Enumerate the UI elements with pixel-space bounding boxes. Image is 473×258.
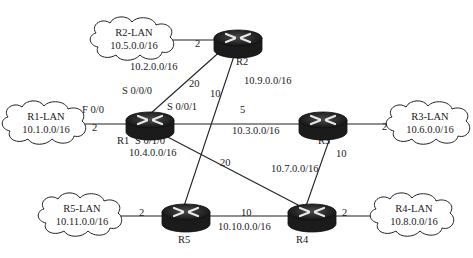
router-r5[interactable] [162, 204, 210, 232]
cost-r2lan: 2 [195, 38, 200, 49]
router-label-r3: R3 [318, 135, 330, 146]
router-label-r1: R1 [117, 135, 129, 146]
lan-name: R4-LAN [395, 203, 433, 214]
lan-r2[interactable]: R2-LAN 10.5.0.0/16 [90, 17, 173, 60]
interface-s010: S 0/1/0 [135, 135, 165, 146]
router-icon [288, 204, 336, 232]
lan-network: 10.8.0.0/16 [390, 216, 438, 227]
network-r2-r5: 10.9.0.0/16 [244, 75, 292, 86]
cost-r3-r4: 10 [336, 148, 347, 159]
lan-name: R2-LAN [115, 27, 153, 38]
cloud-icon [90, 17, 173, 60]
router-label-r4: R4 [296, 234, 309, 245]
router-r4[interactable] [288, 204, 336, 232]
lan-network: 10.6.0.0/16 [406, 124, 454, 135]
cost-r1-r4: 20 [220, 157, 231, 168]
cloud-icon [386, 101, 469, 144]
cost-r4lan: 2 [342, 207, 347, 218]
router-label-r5: R5 [178, 234, 190, 245]
network-r1-r3: 10.3.0.0/16 [232, 125, 280, 136]
lan-network: 10.5.0.0/16 [110, 40, 158, 51]
interface-s001: S 0/0/1 [167, 101, 197, 112]
cost-r1-r2: 20 [189, 78, 200, 89]
network-topology-diagram: R2-LAN 10.5.0.0/16 R1-LAN 10.1.0.0/16 R3… [0, 0, 473, 258]
lan-name: R5-LAN [63, 203, 101, 214]
cost-r5-r4: 10 [241, 207, 252, 218]
router-icon [214, 30, 262, 58]
cost-r3lan: 2 [382, 121, 387, 132]
cost-r5lan: 2 [139, 207, 144, 218]
cloud-icon [2, 101, 85, 144]
network-r3-r4: 10.7.0.0/16 [271, 163, 319, 174]
network-r5-r4: 10.10.0.0/16 [218, 221, 271, 232]
interface-s000: S 0/0/0 [122, 85, 152, 96]
cloud-icon [38, 193, 121, 236]
lan-name: R1-LAN [27, 111, 65, 122]
interface-f00: F 0/0 [82, 104, 104, 115]
lan-network: 10.11.0.0/16 [56, 216, 108, 227]
lan-network: 10.1.0.0/16 [22, 124, 70, 135]
lan-r4[interactable]: R4-LAN 10.8.0.0/16 [370, 193, 453, 236]
router-icon [162, 204, 210, 232]
lan-r5[interactable]: R5-LAN 10.11.0.0/16 [38, 193, 121, 236]
cost-r1lan: 2 [92, 122, 97, 133]
lan-r3[interactable]: R3-LAN 10.6.0.0/16 [386, 101, 469, 144]
lan-name: R3-LAN [411, 111, 449, 122]
link-r2-r5 [184, 50, 236, 206]
router-r2[interactable] [214, 30, 262, 58]
cost-r2-r5: 10 [210, 88, 221, 99]
network-r1-r4: 10.4.0.0/16 [129, 147, 177, 158]
network-r1-r2: 10.2.0.0/16 [130, 61, 178, 72]
router-label-r2: R2 [236, 56, 248, 67]
cost-r1-r3: 5 [240, 104, 245, 115]
lan-r1[interactable]: R1-LAN 10.1.0.0/16 [2, 101, 85, 144]
cloud-icon [370, 193, 453, 236]
